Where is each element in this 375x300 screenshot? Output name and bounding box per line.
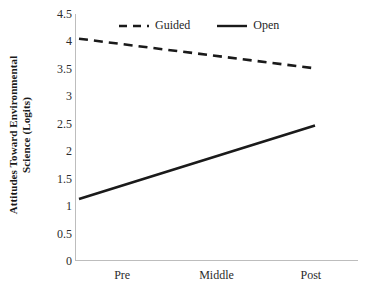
x-axis-tick-label: Pre (114, 268, 130, 283)
y-axis-tick-label: 0.5 (38, 226, 72, 241)
series-line-open (79, 125, 315, 199)
line-chart: Attitudes Toward Environmental Science (… (0, 0, 375, 300)
y-axis-tick-label: 4.5 (38, 7, 72, 22)
x-axis-tick-label: Post (300, 268, 321, 283)
chart-legend: Guided Open (118, 18, 279, 33)
x-axis-tick-label: Middle (199, 268, 234, 283)
y-axis-tick-label: 2 (38, 144, 72, 159)
legend-label-open: Open (253, 18, 279, 33)
y-axis-tick-labels: 00.511.522.533.544.5 (34, 0, 72, 300)
y-axis-tick-label: 2.5 (38, 116, 72, 131)
y-axis-title-line1: Attitudes Toward Environmental (7, 56, 20, 215)
y-axis-tick-label: 3.5 (38, 61, 72, 76)
legend-label-guided: Guided (155, 18, 190, 33)
y-axis-tick-label: 0 (38, 254, 72, 269)
legend-swatch-solid-icon (216, 21, 248, 31)
legend-item-guided: Guided (118, 18, 190, 33)
y-axis-tick-label: 1.5 (38, 171, 72, 186)
series-line-guided (79, 39, 315, 69)
series-lines (79, 39, 315, 199)
plot-area (75, 14, 358, 261)
legend-item-open: Open (216, 18, 279, 33)
y-axis-tick-label: 1 (38, 199, 72, 214)
y-axis-tick-label: 3 (38, 89, 72, 104)
axis-lines (75, 14, 358, 261)
plot-svg (75, 14, 358, 261)
legend-swatch-dashed-icon (118, 21, 150, 31)
y-axis-tick-label: 4 (38, 34, 72, 49)
y-axis-title-line2: Science (Logits) (20, 56, 33, 215)
